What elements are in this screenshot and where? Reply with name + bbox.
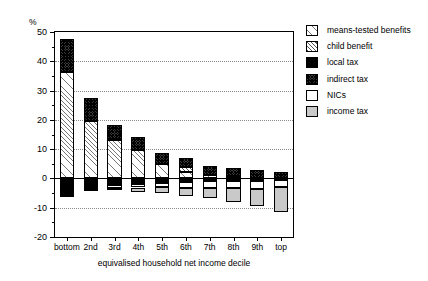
bar-segment[interactable] bbox=[131, 137, 145, 149]
bar-segment[interactable] bbox=[250, 170, 264, 178]
x-axis-tick bbox=[115, 237, 116, 241]
bar-segment[interactable] bbox=[250, 189, 264, 206]
y-axis-minor-tick bbox=[52, 105, 55, 106]
bar-segment[interactable] bbox=[107, 140, 121, 179]
y-axis-minor-tick bbox=[52, 47, 55, 48]
legend-swatch-icon bbox=[306, 90, 318, 101]
legend-item-label: local tax bbox=[327, 58, 358, 67]
x-axis-tick bbox=[67, 237, 68, 241]
y-axis-tick-label: -20 bbox=[34, 233, 47, 242]
bar-segment[interactable] bbox=[155, 153, 169, 164]
plot-area: -20-1001020304050bottom2nd3rd4th5th6th7t… bbox=[54, 31, 294, 238]
y-axis-tick-label: 50 bbox=[37, 28, 47, 37]
bar-segment[interactable] bbox=[84, 121, 98, 178]
y-axis-tick-label: 10 bbox=[37, 145, 47, 154]
legend-item[interactable]: indirect tax bbox=[306, 73, 411, 86]
bar-segment[interactable] bbox=[60, 195, 74, 197]
legend-swatch-icon bbox=[306, 41, 318, 52]
x-axis-tick-label: 9th bbox=[251, 243, 263, 252]
bar-segment[interactable] bbox=[155, 164, 169, 179]
y-axis-tick bbox=[50, 61, 55, 62]
x-axis-tick-label: bottom bbox=[54, 243, 80, 252]
x-axis-tick-label: 2nd bbox=[84, 243, 98, 252]
bar-column[interactable] bbox=[250, 32, 264, 237]
y-axis-tick bbox=[50, 149, 55, 150]
bar-column[interactable] bbox=[155, 32, 169, 237]
bar-segment[interactable] bbox=[60, 178, 74, 193]
bar-segment[interactable] bbox=[226, 181, 240, 188]
bar-column[interactable] bbox=[107, 32, 121, 237]
bar-segment[interactable] bbox=[179, 172, 193, 179]
y-axis-unit-label: % bbox=[29, 17, 37, 27]
x-axis-tick bbox=[162, 237, 163, 241]
y-axis-minor-tick bbox=[52, 222, 55, 223]
bar-segment[interactable] bbox=[179, 188, 193, 196]
bar-segment[interactable] bbox=[84, 178, 98, 187]
bar-column[interactable] bbox=[226, 32, 240, 237]
x-axis-tick bbox=[210, 237, 211, 241]
legend-swatch-icon bbox=[306, 57, 318, 68]
bar-segment[interactable] bbox=[60, 39, 74, 71]
bar-column[interactable] bbox=[274, 32, 288, 237]
bar-segment[interactable] bbox=[203, 166, 217, 175]
x-axis-tick-label: 7th bbox=[204, 243, 216, 252]
bar-segment[interactable] bbox=[274, 172, 288, 179]
bar-column[interactable] bbox=[179, 32, 193, 237]
y-axis-tick bbox=[50, 120, 55, 121]
legend-item[interactable]: child benefit bbox=[306, 40, 411, 53]
bar-segment[interactable] bbox=[226, 188, 240, 201]
bar-segment[interactable] bbox=[84, 189, 98, 191]
y-axis-minor-tick bbox=[52, 193, 55, 194]
legend-item-label: indirect tax bbox=[327, 75, 368, 84]
y-axis-tick-label: -10 bbox=[34, 203, 47, 212]
x-axis-tick bbox=[257, 237, 258, 241]
x-axis-tick-label: top bbox=[275, 243, 287, 252]
bar-column[interactable] bbox=[131, 32, 145, 237]
bar-segment[interactable] bbox=[179, 167, 193, 171]
bar-column[interactable] bbox=[203, 32, 217, 237]
x-axis-tick bbox=[234, 237, 235, 241]
legend-item-label: means-tested benefits bbox=[327, 26, 411, 35]
y-axis-tick bbox=[50, 91, 55, 92]
bar-column[interactable] bbox=[84, 32, 98, 237]
legend-item[interactable]: means-tested benefits bbox=[306, 24, 411, 37]
bar-segment[interactable] bbox=[179, 158, 193, 167]
bar-segment[interactable] bbox=[60, 72, 74, 179]
y-axis-tick-label: 30 bbox=[37, 86, 47, 95]
bar-segment[interactable] bbox=[203, 188, 217, 199]
y-axis-tick bbox=[50, 208, 55, 209]
bar-segment[interactable] bbox=[131, 188, 145, 192]
x-axis-tick-label: 6th bbox=[180, 243, 192, 252]
x-axis-tick-label: 5th bbox=[156, 243, 168, 252]
y-axis-minor-tick bbox=[52, 164, 55, 165]
bar-segment[interactable] bbox=[274, 187, 288, 212]
y-axis-tick bbox=[50, 32, 55, 33]
legend-item[interactable]: NICs bbox=[306, 89, 411, 102]
y-axis-tick-label: 0 bbox=[42, 174, 47, 183]
legend-item[interactable]: income tax bbox=[306, 105, 411, 118]
bar-segment[interactable] bbox=[107, 125, 121, 140]
y-axis-minor-tick bbox=[52, 135, 55, 136]
y-axis-tick-label: 20 bbox=[37, 115, 47, 124]
y-axis-tick-label: 40 bbox=[37, 57, 47, 66]
bar-segment[interactable] bbox=[226, 168, 240, 176]
bar-segment[interactable] bbox=[84, 98, 98, 121]
x-axis-tick bbox=[91, 237, 92, 241]
x-axis-tick-label: 4th bbox=[132, 243, 144, 252]
chart-legend: means-tested benefitschild benefitlocal … bbox=[306, 24, 411, 118]
legend-swatch-icon bbox=[306, 106, 318, 117]
legend-swatch-icon bbox=[306, 25, 318, 36]
legend-item-label: income tax bbox=[327, 107, 368, 116]
legend-swatch-icon bbox=[306, 74, 318, 85]
x-axis-tick bbox=[186, 237, 187, 241]
bar-segment[interactable] bbox=[131, 150, 145, 179]
bar-column[interactable] bbox=[60, 32, 74, 237]
bar-segment[interactable] bbox=[155, 187, 169, 193]
x-axis-tick bbox=[138, 237, 139, 241]
bar-segment[interactable] bbox=[250, 181, 264, 189]
legend-item-label: child benefit bbox=[327, 42, 372, 51]
y-axis-minor-tick bbox=[52, 76, 55, 77]
bar-segment[interactable] bbox=[107, 188, 121, 191]
legend-item-label: NICs bbox=[327, 91, 346, 100]
legend-item[interactable]: local tax bbox=[306, 56, 411, 69]
